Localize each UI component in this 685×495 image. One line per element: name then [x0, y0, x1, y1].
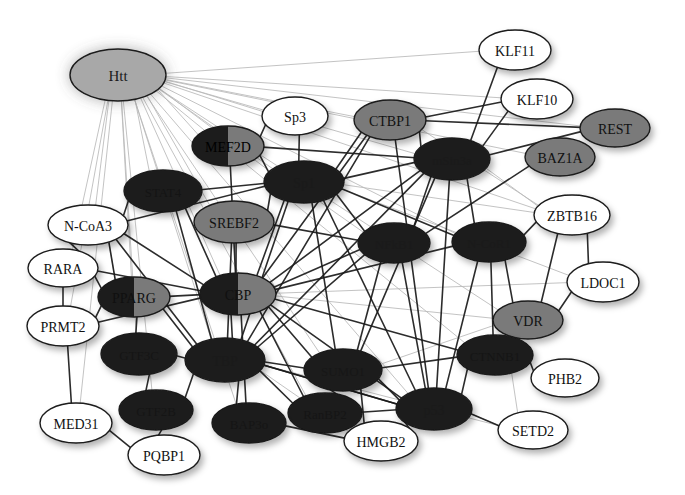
network-node[interactable]: STAT4	[124, 170, 202, 212]
network-edge-strong	[274, 299, 460, 351]
network-node[interactable]: GTF2B	[119, 390, 193, 430]
network-node[interactable]: Sp1	[264, 161, 344, 203]
network-edge-strong	[231, 314, 232, 340]
network-edge-weak	[164, 51, 481, 73]
network-edge-weak	[512, 372, 518, 414]
network-edge-strong	[259, 370, 294, 404]
node-ellipse	[264, 161, 344, 203]
network-node[interactable]: KLF10	[501, 79, 573, 119]
network-edge-strong	[467, 177, 475, 224]
network-edge-strong	[587, 232, 588, 264]
network-node[interactable]: PHB2	[531, 359, 599, 397]
node-ellipse-gray-half	[228, 125, 266, 167]
network-edge-strong	[236, 380, 238, 405]
network-node[interactable]: SREBF2	[194, 201, 274, 243]
network-node[interactable]: MED31	[40, 403, 112, 443]
network-edge-strong	[461, 368, 467, 396]
network-edge-strong	[299, 134, 300, 162]
node-ellipse	[212, 403, 286, 443]
node-ellipse	[288, 393, 362, 433]
network-node[interactable]: N-CoA3	[48, 205, 128, 245]
network-node[interactable]: BAZ1A	[525, 138, 595, 176]
node-ellipse	[48, 205, 128, 245]
network-edge-weak	[157, 89, 199, 136]
network-edge-strong	[94, 275, 102, 290]
node-ellipse	[27, 306, 99, 346]
node-ellipse	[414, 138, 490, 180]
network-node[interactable]: LDOC1	[567, 262, 639, 302]
network-edge-strong	[425, 121, 582, 128]
node-ellipse	[358, 223, 430, 263]
network-edge-weak	[164, 76, 503, 98]
network-node[interactable]: SUMO1	[304, 349, 382, 391]
node-ellipse	[194, 201, 274, 243]
network-node[interactable]: CTNNB1	[457, 335, 533, 375]
network-node[interactable]: BAP3o	[212, 403, 286, 443]
node-ellipse	[28, 249, 98, 287]
node-ellipse	[262, 97, 328, 135]
network-node[interactable]: Htt	[70, 49, 166, 101]
network-edge-strong	[146, 373, 150, 391]
network-node[interactable]: VDR	[493, 301, 563, 339]
node-ellipse	[531, 359, 599, 397]
network-edge-weak	[135, 98, 150, 172]
node-ellipse	[580, 109, 650, 147]
network-edge-strong	[491, 261, 493, 336]
network-edge-strong	[437, 179, 450, 389]
network-node[interactable]: GTF3C	[101, 333, 177, 375]
network-node[interactable]: PQBP1	[128, 435, 200, 475]
network-node[interactable]: RanBP2	[288, 393, 362, 433]
network-edge-strong	[419, 130, 421, 148]
network-node[interactable]: PRMT2	[27, 306, 99, 346]
node-ellipse-gray-half	[238, 272, 278, 316]
node-ellipse	[101, 333, 177, 375]
node-ellipse	[479, 30, 551, 70]
network-edge-strong	[263, 147, 416, 158]
network-node[interactable]: MEF2D	[192, 125, 266, 167]
network-node[interactable]: HMGB2	[344, 421, 418, 461]
node-ellipse	[525, 138, 595, 176]
network-edge-strong	[260, 124, 267, 139]
node-ellipse	[452, 222, 526, 262]
network-edge-strong	[558, 291, 572, 312]
network-edge-strong	[185, 372, 194, 398]
network-node[interactable]: REST	[580, 109, 650, 147]
node-ellipse	[567, 262, 639, 302]
network-node[interactable]: KLF11	[479, 30, 551, 70]
node-ellipse	[70, 49, 166, 101]
network-node[interactable]: CTBP1	[354, 100, 426, 140]
network-node[interactable]: TBP	[185, 338, 265, 382]
node-ellipse	[185, 338, 265, 382]
network-node[interactable]: PPARG	[98, 276, 172, 318]
network-edge-strong	[68, 345, 72, 404]
network-node[interactable]: p53	[396, 388, 472, 430]
network-node[interactable]: NFkB1	[358, 223, 430, 263]
node-ellipse	[40, 403, 112, 443]
node-ellipse	[124, 170, 202, 212]
network-edge-strong	[109, 430, 132, 449]
network-diagram: HttKLF11KLF10Sp3CTBP1RESTMEF2DmSin3aBAZ1…	[0, 0, 685, 495]
node-ellipse	[344, 421, 418, 461]
network-node[interactable]: RARA	[28, 249, 98, 287]
network-edge-strong	[336, 193, 366, 232]
node-ellipse	[498, 411, 568, 449]
network-edge-strong	[95, 304, 102, 318]
network-svg: HttKLF11KLF10Sp3CTBP1RESTMEF2DmSin3aBAZ1…	[0, 0, 685, 495]
node-layer: HttKLF11KLF10Sp3CTBP1RESTMEF2DmSin3aBAZ1…	[27, 30, 650, 475]
node-ellipse	[354, 100, 426, 140]
network-edge-strong	[267, 192, 270, 212]
network-edge-strong	[169, 295, 202, 297]
network-edge-strong	[505, 259, 513, 304]
node-ellipse	[457, 335, 533, 375]
node-ellipse	[304, 349, 382, 391]
network-edge-strong	[541, 233, 558, 304]
node-ellipse	[534, 195, 610, 235]
network-node[interactable]: mSin3a	[414, 138, 490, 180]
network-node[interactable]: N-CoR1	[452, 222, 526, 262]
node-ellipse	[119, 390, 193, 430]
node-ellipse	[493, 301, 563, 339]
network-node[interactable]: Sp3	[262, 97, 328, 135]
network-node[interactable]: ZBTB16	[534, 195, 610, 235]
network-node[interactable]: SETD2	[498, 411, 568, 449]
network-edge-weak	[274, 296, 494, 319]
